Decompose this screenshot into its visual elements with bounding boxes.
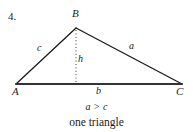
altitude-label-h: h — [78, 54, 83, 64]
vertex-label-b: B — [72, 8, 79, 19]
side-a-line — [76, 28, 182, 84]
caption-inequality: a > c — [0, 101, 193, 113]
vertex-label-c: C — [176, 86, 183, 97]
side-label-b: b — [96, 86, 101, 96]
figure-caption: a > c one triangle — [0, 101, 193, 129]
item-number: 4. — [8, 11, 16, 22]
caption-conclusion: one triangle — [0, 115, 193, 129]
side-c-line — [16, 28, 76, 84]
vertex-label-a: A — [12, 86, 19, 97]
side-label-a: a — [129, 41, 134, 51]
side-label-c: c — [37, 43, 41, 53]
